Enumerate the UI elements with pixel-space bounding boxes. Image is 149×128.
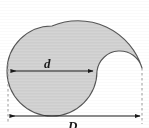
geometry-figure: d D [0, 0, 149, 128]
figure-canvas [0, 0, 149, 128]
shaded-region [7, 21, 142, 116]
shaded-region-path [7, 21, 142, 116]
outer-diameter-label: D [68, 119, 77, 128]
inner-diameter-label: d [44, 57, 51, 70]
